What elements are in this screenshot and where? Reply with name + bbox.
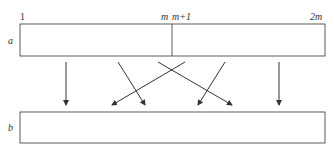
- array-a-box: [20, 24, 325, 56]
- arrow-3: [112, 62, 185, 105]
- arrows-group: [66, 62, 279, 105]
- array-b-box: [20, 112, 325, 143]
- index-label-2m: 2m: [310, 11, 322, 22]
- array-b-label: b: [8, 122, 13, 133]
- merge-diagram: 1 m m+1 2m a b: [0, 0, 334, 153]
- index-label-m-plus-1: m+1: [172, 11, 191, 22]
- array-a-label: a: [8, 35, 13, 46]
- index-label-m: m: [161, 11, 168, 22]
- index-label-1: 1: [20, 11, 25, 22]
